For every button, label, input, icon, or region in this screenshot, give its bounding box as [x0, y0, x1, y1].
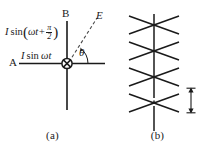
axis-a-label: A	[9, 57, 17, 68]
vertical-current-i: I	[5, 26, 9, 37]
point-e-label: E	[96, 10, 103, 21]
crossed-circle-icon	[62, 58, 72, 68]
horizontal-current-argument: ωt	[41, 50, 51, 61]
vertical-current-label: I sin(ωt+π2)	[5, 24, 58, 42]
panel-a-crossed-dipole: I sin(ωt+π2) I sin ωt B A E θ (a)	[0, 0, 105, 148]
fraction-denominator: 2	[46, 32, 52, 41]
horizontal-current-i: I	[21, 50, 25, 61]
double-headed-vertical-arrow-icon	[187, 88, 196, 114]
vertical-current-fraction: π2	[46, 24, 52, 42]
panel-b-stacked-array: d (b)	[105, 0, 210, 148]
axis-b-label: B	[62, 8, 69, 19]
fraction-numerator: π	[46, 24, 52, 32]
panel-b-caption: (b)	[105, 129, 210, 141]
horizontal-current-label: I sin ωt	[21, 51, 51, 62]
antenna-figure: I sin(ωt+π2) I sin ωt B A E θ (a)	[0, 0, 210, 148]
theta-angle-label: θ	[79, 47, 84, 58]
vertical-current-argument: ωt+	[28, 26, 45, 37]
panel-a-drawing	[0, 0, 105, 148]
horizontal-current-sin: sin	[27, 50, 39, 61]
panel-b-drawing	[105, 0, 210, 148]
panel-a-caption: (a)	[0, 129, 105, 141]
vertical-current-close-paren: )	[53, 24, 58, 40]
vertical-current-sin: sin	[11, 26, 23, 37]
